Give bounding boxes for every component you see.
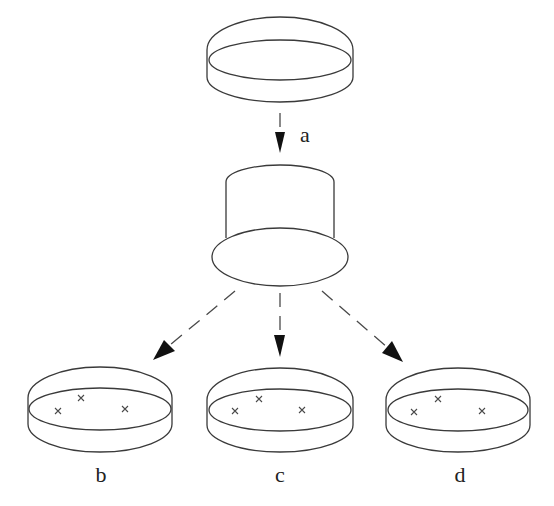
colony-x-icon bbox=[299, 407, 305, 413]
step-label-a: a bbox=[300, 122, 310, 147]
arrowhead-icon bbox=[382, 341, 403, 362]
dish-outer-rim bbox=[207, 368, 353, 452]
velvet-stamp bbox=[212, 165, 348, 286]
colony-x-icon bbox=[232, 408, 238, 414]
colony-x-icon bbox=[435, 396, 441, 402]
petri-dish-d: d bbox=[386, 368, 530, 487]
colony-x-icon bbox=[256, 396, 262, 402]
dish-inner-rim bbox=[388, 389, 528, 431]
colony-x-icon bbox=[411, 409, 417, 415]
colony-marks bbox=[232, 396, 305, 414]
petri-dish-c: c bbox=[207, 368, 353, 487]
colony-x-icon bbox=[122, 406, 128, 412]
transfer-arrow-a: a bbox=[275, 113, 310, 153]
master-petri-dish bbox=[207, 17, 353, 102]
dish-inner-rim bbox=[29, 388, 171, 430]
dish-inner-rim bbox=[209, 389, 351, 431]
dish-outer-rim bbox=[386, 368, 530, 452]
colony-x-icon bbox=[78, 395, 84, 401]
dashed-line bbox=[170, 291, 235, 345]
dish-inner-rim bbox=[209, 40, 351, 80]
dish-outer-rim bbox=[207, 17, 353, 102]
dashed-line bbox=[322, 291, 387, 347]
dish-outer-rim bbox=[28, 367, 172, 452]
plate-label-d: d bbox=[455, 462, 466, 487]
replica-plating-diagram: a b c bbox=[0, 0, 554, 506]
arrowhead-icon bbox=[274, 335, 285, 357]
stamp-cylinder bbox=[226, 165, 334, 238]
plate-label-b: b bbox=[96, 462, 107, 487]
colony-x-icon bbox=[55, 408, 61, 414]
colony-marks bbox=[411, 396, 485, 415]
petri-dish-b: b bbox=[28, 367, 172, 487]
plate-label-c: c bbox=[275, 462, 285, 487]
colony-marks bbox=[55, 395, 128, 414]
arrow-to-plate-b bbox=[153, 291, 235, 360]
colony-x-icon bbox=[479, 408, 485, 414]
arrowhead-icon bbox=[275, 132, 285, 153]
arrow-to-plate-c bbox=[274, 293, 285, 357]
arrow-to-plate-d bbox=[322, 291, 403, 362]
stamp-base bbox=[212, 228, 348, 286]
